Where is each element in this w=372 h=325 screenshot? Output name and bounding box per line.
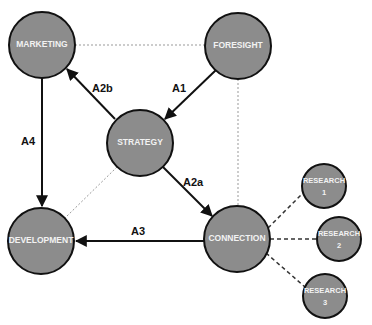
dashed-link-connection-research1 bbox=[268, 193, 303, 228]
node-label-foresight: FORESIGHT bbox=[213, 40, 263, 50]
node-label-research-1: RESEARCH bbox=[303, 176, 345, 185]
node-development: DEVELOPMENT bbox=[8, 208, 74, 274]
node-label-research-2: RESEARCH bbox=[318, 229, 360, 238]
node-connection: CONNECTION bbox=[204, 206, 270, 272]
node-number-research-2: 2 bbox=[337, 241, 341, 250]
node-label-research-3: RESEARCH bbox=[304, 286, 346, 295]
node-label-development: DEVELOPMENT bbox=[9, 235, 75, 245]
edge-label-a2b: A2b bbox=[92, 82, 113, 94]
edge-label-a1: A1 bbox=[172, 82, 186, 94]
node-marketing: MARKETING bbox=[9, 12, 75, 78]
arrow-a1 bbox=[165, 70, 216, 119]
node-research-1: RESEARCH 1 bbox=[302, 164, 346, 208]
edge-label-a4: A4 bbox=[21, 135, 36, 147]
node-foresight: FORESIGHT bbox=[205, 13, 271, 79]
node-strategy: STRATEGY bbox=[107, 110, 173, 176]
diagram-canvas: A1 A2b A2a A3 A4 MARKETING FORESIGHT STR… bbox=[0, 0, 372, 325]
dashed-link-connection-research3 bbox=[266, 253, 305, 287]
node-label-connection: CONNECTION bbox=[208, 233, 265, 243]
arrow-a2a bbox=[163, 167, 212, 216]
edge-label-a2a: A2a bbox=[183, 176, 204, 188]
node-research-3: RESEARCH 3 bbox=[303, 274, 347, 318]
node-label-strategy: STRATEGY bbox=[117, 137, 163, 147]
arrow-a2b bbox=[67, 69, 115, 119]
edge-label-a3: A3 bbox=[131, 225, 145, 237]
node-research-2: RESEARCH 2 bbox=[317, 217, 361, 261]
dotted-link-strategy-development bbox=[65, 167, 117, 218]
node-number-research-1: 1 bbox=[322, 188, 326, 197]
node-label-marketing: MARKETING bbox=[16, 39, 68, 49]
node-number-research-3: 3 bbox=[323, 298, 327, 307]
